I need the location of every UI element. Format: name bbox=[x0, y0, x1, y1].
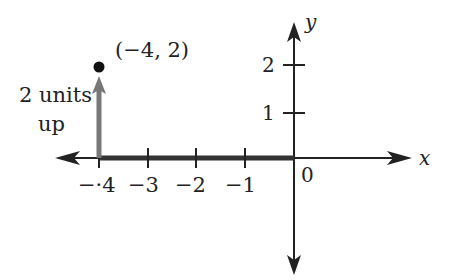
x-axis-label: x bbox=[419, 146, 430, 170]
x-tick-label-neg3: −3 bbox=[128, 173, 159, 197]
y-tick-label-2: 2 bbox=[262, 53, 275, 77]
x-tick-label-neg1: −1 bbox=[225, 173, 256, 197]
y-axis-label: y bbox=[304, 10, 317, 34]
y-tick-label-1: 1 bbox=[262, 101, 275, 125]
coordinate-plane: (−4, 2) 2 units up −·4 −3 −2 −1 0 1 2 x … bbox=[0, 0, 457, 280]
x-tick-label-neg4: −·4 bbox=[78, 173, 116, 197]
y-axis bbox=[287, 22, 301, 275]
up-arrow bbox=[92, 76, 106, 158]
point-label: (−4, 2) bbox=[115, 38, 189, 62]
x-tick-label-neg2: −2 bbox=[175, 173, 206, 197]
up-label-line2: up bbox=[38, 112, 65, 136]
origin-label: 0 bbox=[301, 163, 314, 187]
point-marker bbox=[94, 62, 105, 73]
up-label-line1: 2 units bbox=[19, 83, 92, 107]
